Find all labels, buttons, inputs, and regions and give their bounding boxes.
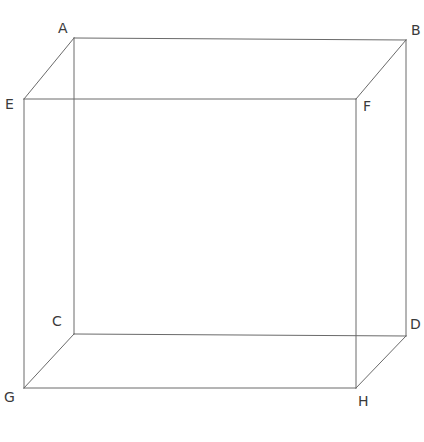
cube-edge-dh <box>356 336 406 388</box>
edge-group <box>24 38 406 388</box>
vertex-label-b: B <box>411 23 421 37</box>
cube-edge-bf <box>356 40 406 99</box>
vertex-label-f: F <box>363 99 371 113</box>
cube-edge-ab <box>74 38 406 40</box>
cube-figure: ABCDEFGH <box>0 0 424 442</box>
cube-edge-cg <box>24 334 74 388</box>
vertex-label-g: G <box>4 390 15 404</box>
vertex-label-e: E <box>5 97 14 111</box>
cube-edge-ae <box>24 38 74 99</box>
vertex-label-d: D <box>410 317 421 331</box>
cube-wireframe-svg <box>0 0 424 442</box>
vertex-label-a: A <box>58 21 68 35</box>
vertex-label-c: C <box>52 314 62 328</box>
vertex-label-h: H <box>358 394 369 408</box>
